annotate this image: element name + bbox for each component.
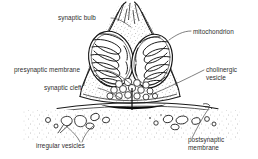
label-postsynaptic-membrane-line1: postsynaptic (188, 136, 225, 144)
label-synaptic-bulb: synaptic bulb (58, 14, 96, 22)
label-mitochondrion: mitochondrion (193, 28, 234, 35)
leader-mitochondrion (169, 31, 191, 40)
synapse-diagram: synaptic bulb mitochondrion presynaptic … (0, 0, 258, 159)
label-cholinergic-vesicle-line2: vesicle (206, 74, 226, 81)
label-synaptic-cleft: synaptic cleft (44, 84, 82, 92)
label-postsynaptic-membrane-line2: membrane (188, 144, 219, 151)
diagram-canvas: synaptic bulb mitochondrion presynaptic … (0, 0, 258, 159)
label-irregular-vesicles: irregular vesicles (36, 142, 85, 150)
label-cholinergic-vesicle-line1: cholinergic (206, 66, 238, 74)
label-presynaptic-membrane: presynaptic membrane (14, 66, 80, 74)
